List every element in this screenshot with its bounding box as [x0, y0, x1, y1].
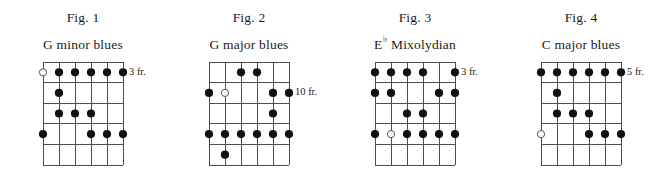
scale-quality-label: Mixolydian [391, 37, 456, 52]
note-marker [435, 89, 443, 97]
note-marker [585, 109, 593, 117]
note-marker [419, 130, 427, 138]
note-marker [269, 109, 277, 117]
note-marker [119, 130, 127, 138]
scale-quality-label: minor blues [57, 37, 123, 52]
note-marker [71, 109, 79, 117]
open-note-marker [537, 131, 544, 138]
fretboard-grid [209, 62, 289, 165]
note-marker [553, 68, 561, 76]
scale-root-note: G [209, 37, 219, 52]
scale-root-note: C [542, 37, 551, 52]
open-note-marker [221, 89, 228, 96]
note-marker [205, 130, 213, 138]
note-marker [585, 68, 593, 76]
open-note-marker [387, 131, 394, 138]
scale-quality-label: major blues [223, 37, 289, 52]
note-marker [269, 89, 277, 97]
scale-name-label: G minor blues [0, 38, 166, 52]
note-marker [55, 68, 63, 76]
note-marker [403, 130, 411, 138]
fret-position-label: 10 fr. [295, 87, 317, 98]
note-marker [553, 89, 561, 97]
note-marker [285, 89, 293, 97]
scale-diagram-figure: Fig. 3E♭ Mixolydian3 fr. [332, 0, 498, 174]
note-marker [601, 130, 609, 138]
note-marker [435, 130, 443, 138]
note-marker [285, 130, 293, 138]
scale-diagram-figure: Fig. 1G minor blues3 fr. [0, 0, 166, 174]
note-marker [617, 130, 625, 138]
note-marker [55, 109, 63, 117]
fretboard-area: 10 fr. [166, 62, 332, 168]
note-marker [403, 68, 411, 76]
note-marker [221, 151, 229, 159]
scale-name-label: E♭ Mixolydian [332, 38, 498, 52]
note-marker [269, 130, 277, 138]
note-marker [569, 109, 577, 117]
note-marker [39, 130, 47, 138]
note-marker [103, 130, 111, 138]
note-marker [569, 68, 577, 76]
fret-position-label: 5 fr. [627, 67, 644, 78]
fret-position-label: 3 fr. [461, 67, 478, 78]
note-marker [205, 89, 213, 97]
fretboard-area: 3 fr. [332, 62, 498, 168]
fretboard-grid [375, 62, 455, 165]
note-marker [103, 68, 111, 76]
note-marker [119, 68, 127, 76]
figure-number-label: Fig. 2 [166, 11, 332, 25]
note-marker [237, 130, 245, 138]
flat-accidental-icon: ♭ [382, 33, 387, 44]
note-marker [253, 68, 261, 76]
note-marker [617, 68, 625, 76]
note-marker [601, 68, 609, 76]
note-marker [585, 130, 593, 138]
note-marker [87, 68, 95, 76]
figure-row: Fig. 1G minor blues3 fr.Fig. 2G major bl… [0, 0, 665, 174]
note-marker [221, 130, 229, 138]
note-marker [237, 68, 245, 76]
note-marker [87, 130, 95, 138]
note-marker [537, 68, 545, 76]
note-marker [553, 109, 561, 117]
fretboard-grid [541, 62, 621, 165]
note-marker [371, 130, 379, 138]
figure-number-label: Fig. 1 [0, 11, 166, 25]
note-marker [451, 68, 459, 76]
note-marker [55, 89, 63, 97]
note-marker [387, 68, 395, 76]
note-marker [387, 89, 395, 97]
note-marker [87, 109, 95, 117]
note-marker [451, 130, 459, 138]
scale-diagram-figure: Fig. 2G major blues10 fr. [166, 0, 332, 174]
note-marker [371, 89, 379, 97]
note-marker [419, 68, 427, 76]
fretboard-area: 3 fr. [0, 62, 166, 168]
note-marker [371, 68, 379, 76]
open-note-marker [39, 69, 46, 76]
scale-quality-label: major blues [555, 37, 621, 52]
fret-position-label: 3 fr. [129, 67, 146, 78]
figure-number-label: Fig. 4 [498, 11, 664, 25]
note-marker [419, 109, 427, 117]
scale-root-note: G [43, 37, 53, 52]
note-marker [451, 89, 459, 97]
fretboard-area: 5 fr. [498, 62, 664, 168]
note-marker [71, 68, 79, 76]
figure-number-label: Fig. 3 [332, 11, 498, 25]
fretboard-grid [43, 62, 123, 165]
scale-name-label: G major blues [166, 38, 332, 52]
scale-name-label: C major blues [498, 38, 664, 52]
note-marker [403, 109, 411, 117]
note-marker [253, 130, 261, 138]
scale-diagram-figure: Fig. 4C major blues5 fr. [498, 0, 664, 174]
